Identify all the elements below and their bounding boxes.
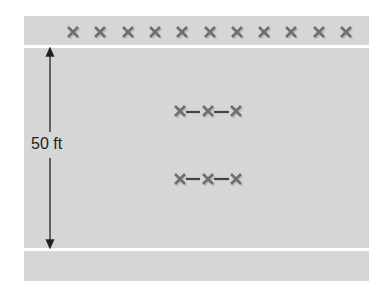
plant-marker-icon [230,25,244,39]
plant-marker-icon [173,104,187,118]
plant-marker-icon [257,25,271,39]
plant-marker-icon [203,25,217,39]
plant-marker-icon [121,25,135,39]
plant-marker-icon [66,25,80,39]
plant-marker-icon [173,172,187,186]
plant-marker-icon [201,172,215,186]
plant-marker-icon [93,25,107,39]
plant-marker-icon [201,104,215,118]
plant-marker-icon [229,104,243,118]
plant-marker-icon [339,25,353,39]
plant-marker-icon [284,25,298,39]
plant-marker-icon [229,172,243,186]
plant-marker-icon [175,25,189,39]
plant-marker-icon [312,25,326,39]
dimension-label: 50 ft [30,135,63,153]
plant-marker-icon [148,25,162,39]
